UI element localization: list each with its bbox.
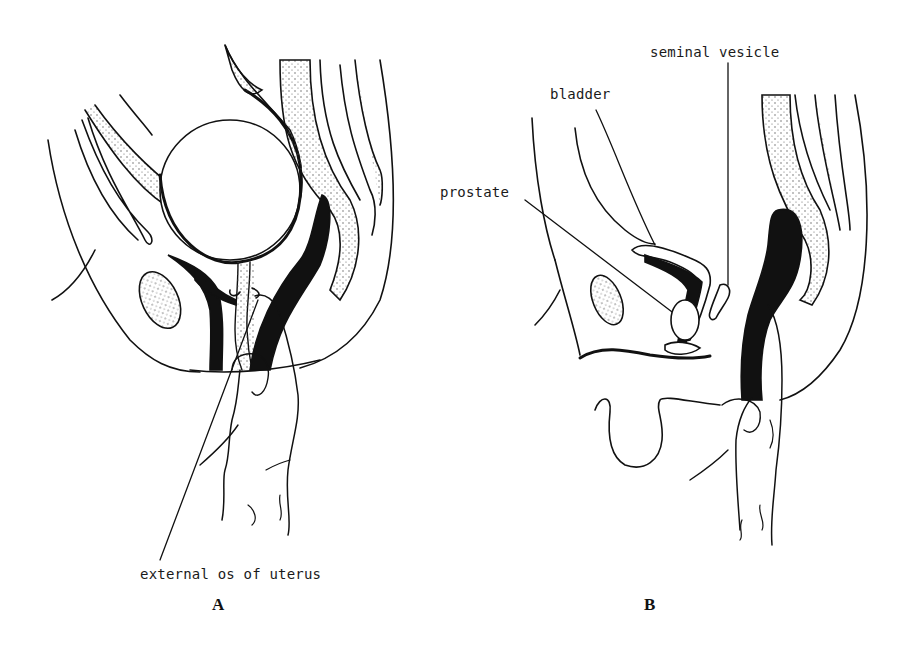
panel-letter-a: A: [212, 595, 224, 615]
label-prostate: prostate: [440, 184, 509, 200]
panel-a-drawing: [48, 45, 393, 560]
label-external-os-of-uterus: external os of uterus: [140, 566, 321, 582]
anatomy-figure: external os of uterus seminal vesicle bl…: [0, 0, 910, 655]
label-seminal-vesicle: seminal vesicle: [650, 44, 779, 60]
figure-artwork: [0, 0, 910, 655]
panel-b-drawing: [525, 63, 867, 545]
panel-letter-b: B: [644, 595, 655, 615]
label-bladder: bladder: [550, 86, 610, 102]
